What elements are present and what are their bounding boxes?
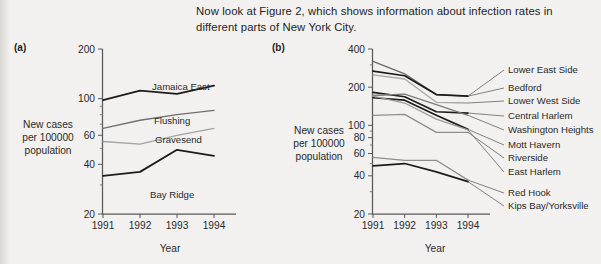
leader-line-mott-havern [468, 129, 504, 145]
legend-label-bedford: Bedford [508, 82, 542, 93]
x-tick-label: 1991 [362, 220, 385, 231]
y-tick-label: 200 [348, 82, 365, 93]
legend-label-kips-bay-yorksville: Kips Bay/Yorksville [508, 200, 589, 211]
leader-line-red-hook [468, 180, 504, 193]
series-line-kips-bay-yorksville [373, 164, 468, 182]
panel-b-chart: 204060801002004001991199219931994Lower E… [0, 0, 601, 264]
leader-line-east-harlem [468, 130, 504, 172]
x-tick-label: 1993 [425, 220, 448, 231]
x-tick-label: 1992 [393, 220, 416, 231]
legend-label-washington-heights: Washington Heights [508, 124, 594, 135]
legend-label-east-harlem: East Harlem [508, 166, 561, 177]
leader-line-kips-bay-yorksville [468, 182, 504, 206]
x-tick-label: 1994 [457, 220, 480, 231]
leader-line-lower-west-side [468, 101, 504, 103]
y-tick-label: 400 [348, 44, 365, 55]
legend-label-central-harlem: Central Harlem [508, 110, 573, 121]
y-tick-label: 100 [348, 120, 365, 131]
legend-label-mott-havern: Mott Havern [508, 139, 560, 150]
leader-line-washington-heights [468, 115, 504, 130]
y-tick-label: 20 [354, 209, 366, 220]
y-tick-label: 40 [354, 170, 366, 181]
legend-label-lower-east-side: Lower East Side [508, 64, 578, 75]
y-tick-label: 60 [354, 148, 366, 159]
legend-label-lower-west-side: Lower West Side [508, 95, 580, 106]
y-tick-label: 80 [354, 132, 366, 143]
leader-line-central-harlem [468, 113, 504, 116]
legend-label-red-hook: Red Hook [508, 187, 551, 198]
figure-page: Now look at Figure 2, which shows inform… [0, 0, 601, 264]
legend-label-riverside: Riverside [508, 152, 548, 163]
